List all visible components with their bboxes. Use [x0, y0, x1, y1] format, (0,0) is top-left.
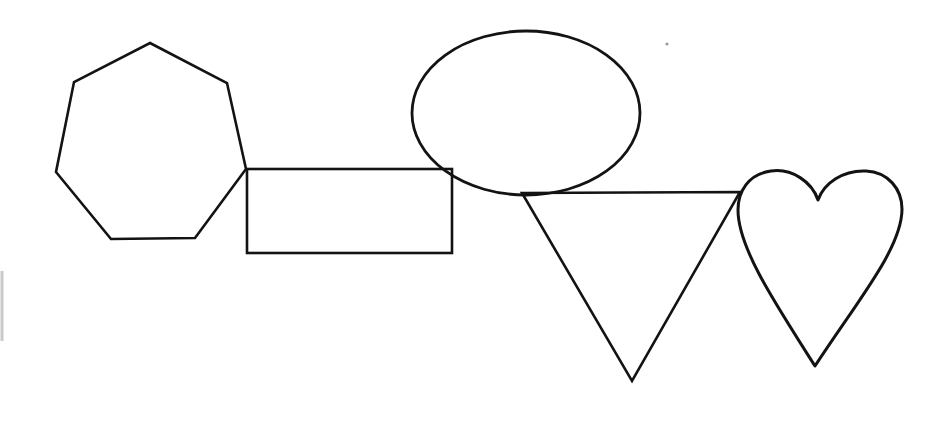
canvas-background	[0, 0, 949, 437]
drawing-canvas	[0, 0, 949, 437]
shapes-svg	[0, 0, 949, 437]
dust-speck	[665, 42, 668, 45]
